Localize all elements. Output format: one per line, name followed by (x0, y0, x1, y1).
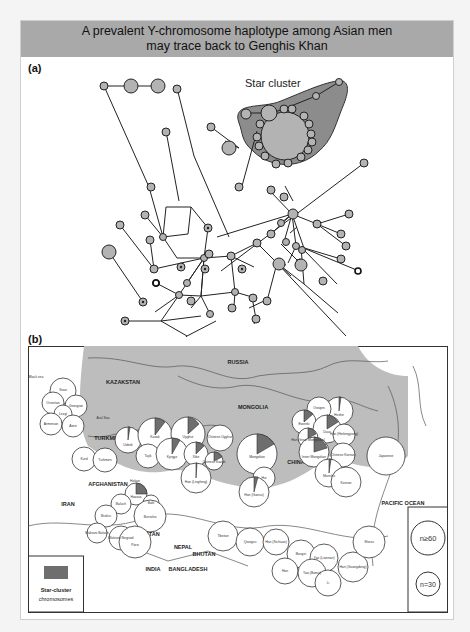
svg-text:Inner Mongolian: Inner Mongolian (302, 455, 326, 459)
svg-text:Black sea: Black sea (29, 375, 44, 379)
svg-text:Kazak: Kazak (150, 435, 160, 439)
svg-text:INDIA: INDIA (146, 566, 161, 572)
svg-text:Korean: Korean (341, 481, 352, 485)
svg-text:Han (Heilongjiang): Han (Heilongjiang) (330, 432, 358, 436)
svg-text:Uzbek: Uzbek (123, 443, 133, 447)
svg-text:Svan: Svan (59, 388, 67, 392)
svg-text:Manchu: Manchu (323, 474, 335, 478)
figure-title: A prevalent Y-chromosome haplotype among… (21, 21, 453, 57)
svg-text:Uyghur: Uyghur (183, 435, 195, 439)
svg-text:Tajik: Tajik (145, 454, 152, 458)
svg-text:Georgian: Georgian (69, 404, 83, 408)
svg-text:n=30: n=30 (420, 581, 436, 588)
svg-text:IRAN: IRAN (61, 501, 74, 507)
svg-text:Kyrgyz: Kyrgyz (167, 455, 178, 459)
title-line-1: A prevalent Y-chromosome haplotype among… (21, 24, 453, 39)
svg-text:Hezhe: Hezhe (334, 413, 344, 417)
svg-text:BHUTAN: BHUTAN (193, 551, 216, 557)
svg-text:Star-cluster: Star-cluster (41, 587, 72, 593)
svg-text:Tibetan: Tibetan (217, 534, 228, 538)
svg-text:MONGOLIA: MONGOLIA (238, 404, 268, 410)
svg-text:Kurd: Kurd (80, 457, 87, 461)
svg-text:Makrani Negroid: Makrani Negroid (109, 536, 134, 540)
svg-text:Yao (Bama): Yao (Bama) (303, 571, 321, 575)
svg-text:chromosomes: chromosomes (39, 596, 74, 602)
svg-text:Brahui: Brahui (101, 514, 111, 518)
svg-text:Hakan: Hakan (130, 479, 140, 483)
legend-swatch-box: Star-cluster chromosomes (29, 556, 84, 612)
svg-text:n≥60: n≥60 (420, 534, 437, 543)
svg-text:Mongolian: Mongolian (249, 455, 265, 459)
svg-text:BANGLADESH: BANGLADESH (169, 566, 208, 572)
svg-text:RUSSIA: RUSSIA (228, 359, 249, 365)
svg-text:Han (Gansu): Han (Gansu) (244, 493, 263, 497)
svg-text:Aral Sea: Aral Sea (96, 416, 109, 420)
svg-text:Azeri: Azeri (69, 424, 77, 428)
svg-text:KAZAKSTAN: KAZAKSTAN (106, 379, 140, 385)
svg-text:Qiangzu: Qiangzu (244, 540, 257, 544)
svg-text:Turkmen: Turkmen (98, 458, 111, 462)
svg-text:Han (Sichuan): Han (Sichuan) (265, 540, 287, 544)
svg-text:Han (Lingfeng): Han (Lingfeng) (185, 480, 207, 484)
legend-size-box: n≥60 n=30 (408, 507, 448, 612)
title-line-2: may trace back to Genghis Khan (21, 39, 453, 54)
svg-text:NEPAL: NEPAL (174, 544, 193, 550)
svg-text:Han (Inner Mongolian): Han (Inner Mongolian) (291, 438, 325, 442)
svg-text:Makrani Baluch: Makrani Baluch (85, 531, 108, 535)
svg-text:Ewenki: Ewenki (299, 422, 310, 426)
svg-text:Han: Han (282, 569, 288, 573)
svg-text:Chinese Korean: Chinese Korean (331, 453, 355, 457)
svg-text:Shezu: Shezu (364, 540, 374, 544)
svg-text:Yao (Liannan): Yao (Liannan) (313, 556, 334, 560)
svg-text:Japanese: Japanese (379, 454, 394, 458)
svg-text:Han (Guangdong): Han (Guangdong) (339, 565, 366, 569)
svg-text:Hui: Hui (261, 476, 266, 480)
svg-text:AFGHANISTAN: AFGHANISTAN (88, 481, 128, 487)
svg-text:PACIFIC OCEAN: PACIFIC OCEAN (382, 500, 425, 506)
svg-text:Xibe: Xibe (193, 455, 200, 459)
figure-frame: A prevalent Y-chromosome haplotype among… (20, 20, 454, 620)
svg-text:Parsi: Parsi (131, 543, 139, 547)
distribution-map: RUSSIA KAZAKSTAN MONGOLIA TURKMENISTAN A… (28, 346, 448, 613)
svg-text:Balti: Balti (148, 501, 155, 505)
svg-text:Baluch: Baluch (116, 502, 126, 506)
svg-text:Armenian: Armenian (44, 422, 59, 426)
svg-text:Burusho: Burusho (144, 515, 157, 519)
haplotype-network: Star cluster (21, 57, 455, 337)
svg-text:Chinese Kazak: Chinese Kazak (203, 460, 226, 464)
svg-text:Hazara: Hazara (131, 495, 142, 499)
svg-text:Li: Li (327, 581, 330, 585)
svg-text:Lezgi: Lezgi (59, 412, 67, 416)
svg-text:Chinese Uyghur: Chinese Uyghur (208, 435, 233, 439)
star-cluster-label: Star cluster (245, 77, 301, 89)
svg-text:Oroqen: Oroqen (313, 406, 324, 410)
svg-text:Ossetian: Ossetian (46, 401, 59, 405)
panel-b-label: (b) (28, 333, 42, 345)
svg-text:Bouyei: Bouyei (296, 552, 307, 556)
